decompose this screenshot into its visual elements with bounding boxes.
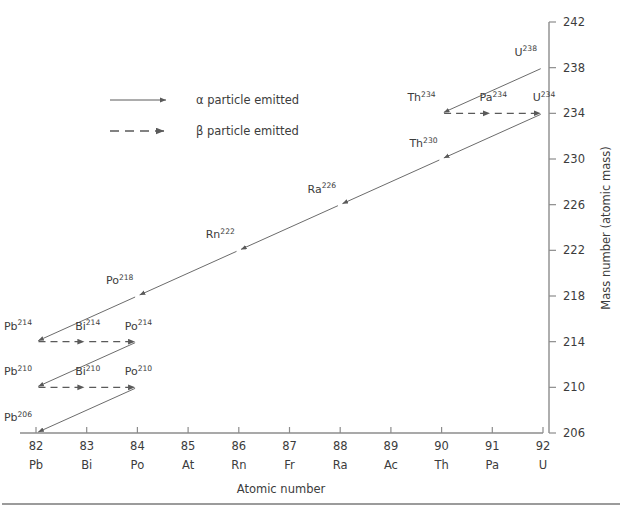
nuclide-label-U234: U234 <box>533 90 556 105</box>
decay-alpha-Rn222-to-Po218 <box>140 251 237 295</box>
decay-alpha-Th230-to-Ra226 <box>342 160 439 204</box>
nuclide-label-Th234: Th234 <box>406 90 435 105</box>
y-tick-label-242: 242 <box>563 15 585 29</box>
x-tick-label-87: 87 <box>282 439 297 453</box>
x-tick-label-84: 84 <box>130 439 145 453</box>
decay-alpha-Po210-to-Pb206 <box>38 388 135 432</box>
nuclide-label-Ra226: Ra226 <box>308 181 337 196</box>
x-tick-label-92: 92 <box>536 439 551 453</box>
x-tick-label-90: 90 <box>434 439 449 453</box>
decay-alpha-U234-to-Th230 <box>444 114 541 158</box>
y-tick-label-210: 210 <box>563 380 585 394</box>
nuclide-label-Rn222: Rn222 <box>206 227 235 242</box>
y-tick-label-238: 238 <box>563 61 585 75</box>
x-tick-label-91: 91 <box>485 439 500 453</box>
nuclide-label-Pb206: Pb206 <box>4 410 32 425</box>
nuclide-label-Po218: Po218 <box>106 273 134 288</box>
decay-series-figure: α particle emitted β particle emitted 82… <box>0 0 622 515</box>
x-tick-symbol-Rn: Rn <box>231 458 246 472</box>
x-tick-symbol-Po: Po <box>131 458 145 472</box>
nuclide-label-Th230: Th230 <box>408 136 437 151</box>
x-tick-symbol-Ac: Ac <box>384 458 398 472</box>
nuclide-label-Pa234: Pa234 <box>480 90 508 105</box>
nuclide-label-Pb214: Pb214 <box>4 318 32 333</box>
y-tick-label-230: 230 <box>563 152 585 166</box>
decay-alpha-Ra226-to-Rn222 <box>241 206 338 250</box>
x-tick-symbol-Th: Th <box>433 458 448 472</box>
legend-alpha-label: α particle emitted <box>196 93 299 107</box>
legend: α particle emitted β particle emitted <box>110 93 299 138</box>
legend-beta-label: β particle emitted <box>196 124 299 138</box>
x-tick-symbol-Pb: Pb <box>29 458 43 472</box>
x-tick-symbol-Pa: Pa <box>486 458 499 472</box>
x-tick-label-83: 83 <box>79 439 94 453</box>
y-tick-label-214: 214 <box>563 335 585 349</box>
y-tick-label-234: 234 <box>563 106 585 120</box>
x-tick-symbol-Fr: Fr <box>284 458 295 472</box>
nuclide-label-Pb210: Pb210 <box>4 364 32 379</box>
x-tick-label-89: 89 <box>384 439 399 453</box>
x-tick-label-82: 82 <box>29 439 44 453</box>
nuclide-label-Po210: Po210 <box>125 364 153 379</box>
nuclide-label-Po214: Po214 <box>125 318 153 333</box>
nuclide-label-U238: U238 <box>514 44 537 59</box>
x-tick-symbol-Bi: Bi <box>81 458 92 472</box>
x-tick-symbol-U: U <box>539 458 547 472</box>
x-axis-ticks: 82Pb83Bi84Po85At86Rn87Fr88Ra89Ac90Th91Pa… <box>29 427 551 472</box>
x-tick-label-86: 86 <box>231 439 246 453</box>
y-tick-label-206: 206 <box>563 426 585 440</box>
decay-series-chart: α particle emitted β particle emitted 82… <box>0 0 622 515</box>
y-tick-label-218: 218 <box>563 289 585 303</box>
x-tick-label-85: 85 <box>181 439 196 453</box>
nuclide-label-Bi210: Bi210 <box>75 364 100 379</box>
nuclide-label-Bi214: Bi214 <box>75 318 100 333</box>
y-axis-ticks: 206210214218222226230234238242 <box>549 15 585 440</box>
x-tick-symbol-Ra: Ra <box>333 458 348 472</box>
x-tick-label-88: 88 <box>333 439 348 453</box>
y-tick-label-226: 226 <box>563 198 585 212</box>
y-axis-title: Mass number (atomic mass) <box>599 146 613 309</box>
y-tick-label-222: 222 <box>563 243 585 257</box>
x-axis-title: Atomic number <box>237 482 326 496</box>
x-tick-symbol-At: At <box>182 458 195 472</box>
